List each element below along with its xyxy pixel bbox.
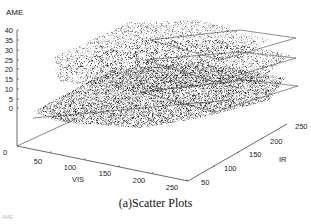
vis-tick: 150 <box>99 169 112 178</box>
vis-tick: 200 <box>133 176 146 185</box>
scatter-3d-plot: AME 40 35 30 25 20 15 10 5 0 0 <box>0 0 311 224</box>
vis-tick: 250 <box>166 183 179 192</box>
z-tick: 35 <box>5 36 13 45</box>
ir-tick: 150 <box>249 150 262 159</box>
z-axis-label: AME <box>6 8 23 17</box>
ir-tick: 200 <box>270 137 283 146</box>
vis-tick: 50 <box>34 157 42 166</box>
ir-axis-label: IR <box>279 155 287 164</box>
vis-axis-ticks: 50 100 150 200 250 <box>34 151 187 192</box>
z-tick: 30 <box>5 46 13 55</box>
z-tick: 5 <box>9 95 13 104</box>
vis-axis-label: VIS <box>72 175 84 184</box>
corner-zero-label: 0 <box>3 148 7 157</box>
scatter-figure: AME 40 35 30 25 20 15 10 5 0 0 <box>0 0 311 224</box>
ir-tick: 250 <box>295 122 308 131</box>
figure-caption: (a)Scatter Plots <box>0 196 311 211</box>
footer-fragment: AME <box>2 214 13 220</box>
ir-tick: 50 <box>201 178 209 187</box>
z-tick: 25 <box>5 56 13 65</box>
z-tick: 40 <box>5 26 13 35</box>
ir-tick: 100 <box>224 164 237 173</box>
vis-tick: 100 <box>64 163 77 172</box>
z-tick: 20 <box>5 65 13 74</box>
z-tick: 10 <box>5 85 13 94</box>
ir-axis-ticks: 50 100 150 200 250 <box>201 122 308 187</box>
z-tick: 0 <box>9 104 13 113</box>
z-tick: 15 <box>5 75 13 84</box>
